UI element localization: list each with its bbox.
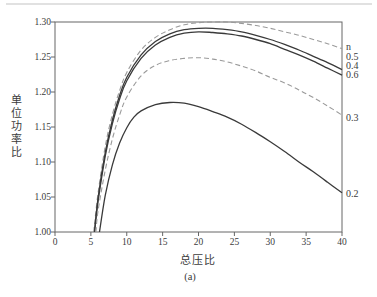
line-chart-figure: 05101520253035401.001.051.101.151.201.25… [0, 0, 377, 297]
x-tick-label: 40 [330, 236, 354, 248]
curve-n-0.3 [96, 58, 342, 232]
x-tick-label: 25 [222, 236, 246, 248]
y-tick-label: 1.25 [25, 51, 51, 63]
y-tick-label: 1.05 [25, 191, 51, 203]
x-tick-label: 5 [79, 236, 103, 248]
y-axis-title: 单位功率比 [8, 94, 24, 204]
legend-label-n-0.6: 0.6 [346, 69, 359, 81]
y-tick-label: 1.15 [25, 121, 51, 133]
x-axis-title: 总压比 [158, 251, 238, 267]
x-tick-label: 30 [258, 236, 282, 248]
curve-n-0.5 [94, 22, 342, 232]
legend-label-n-0.3: 0.3 [346, 112, 359, 124]
y-tick-label: 1.10 [25, 156, 51, 168]
x-tick-label: 10 [115, 236, 139, 248]
curve-n-0.2 [100, 102, 343, 232]
curve-n-0.6 [95, 32, 343, 232]
y-tick-label: 1.30 [25, 16, 51, 28]
curve-n-0.4 [95, 28, 343, 232]
x-tick-label: 15 [151, 236, 175, 248]
x-tick-label: 20 [187, 236, 211, 248]
y-tick-label: 1.20 [25, 86, 51, 98]
subfigure-caption: (a) [160, 271, 220, 282]
x-tick-label: 35 [294, 236, 318, 248]
legend-label-n-0.2: 0.2 [346, 188, 359, 200]
y-tick-label: 1.00 [25, 226, 51, 238]
